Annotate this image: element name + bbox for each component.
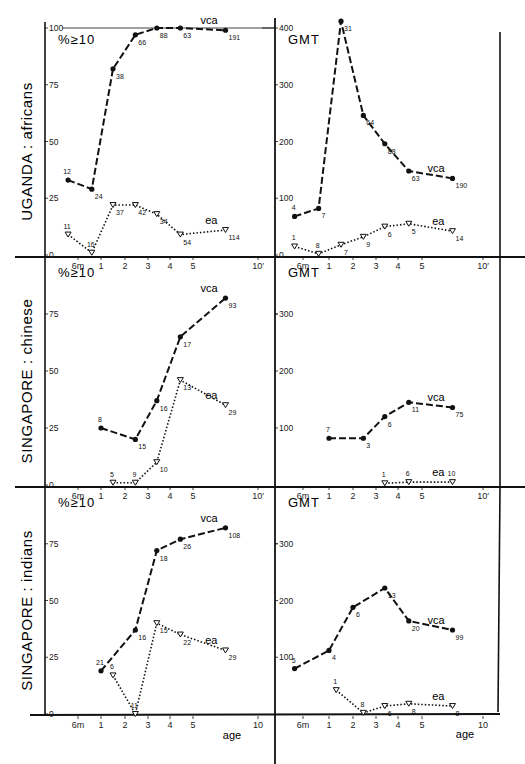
data-point-dot (133, 627, 138, 632)
n-label: 54 (183, 239, 191, 246)
x-tick-label: 1 (98, 261, 103, 271)
data-point-dot (382, 585, 387, 590)
n-label: 1 (333, 678, 337, 685)
panel-title: GMT (288, 265, 320, 280)
n-label: 20 (412, 625, 420, 632)
n-label: 66 (138, 39, 146, 46)
n-label: 7 (326, 426, 330, 433)
y-tick-label: 0 (49, 250, 54, 260)
x-tick-label: 5 (419, 491, 424, 501)
data-point-dot (178, 334, 183, 339)
data-point-dot (292, 666, 297, 671)
data-point-dot (350, 605, 355, 610)
data-point-triangle (223, 648, 229, 653)
n-label: 4 (332, 654, 336, 661)
series-label-vca: vca (200, 512, 218, 524)
y-tick-label: 100 (279, 423, 293, 433)
data-point-dot (66, 177, 71, 182)
n-label: 99 (456, 634, 464, 641)
y-tick-label: 0 (279, 250, 284, 260)
x-tick-label: 3 (145, 261, 150, 271)
n-label: 12 (63, 168, 71, 175)
n-label: 7 (344, 249, 348, 256)
n-label: 15 (160, 627, 168, 634)
x-tick-label: 4 (395, 261, 400, 271)
row-label: SINGAPORE : indians (18, 530, 35, 691)
n-label: 6 (388, 231, 392, 238)
n-label: 6 (388, 421, 392, 428)
data-point-dot (178, 25, 183, 30)
n-label: 191 (229, 34, 241, 41)
series-line-ea (295, 224, 453, 254)
data-point-triangle (110, 480, 116, 485)
x-tick-label: 2 (122, 491, 127, 501)
n-label: 24 (95, 193, 103, 200)
x-tick-label: 5 (419, 720, 424, 730)
n-label: 3 (366, 442, 370, 449)
n-label: 114 (229, 234, 240, 241)
x-tick-label: 1 (98, 720, 103, 730)
data-point-dot (154, 25, 159, 30)
data-point-dot (338, 19, 343, 24)
n-label: 29 (229, 654, 237, 661)
series-line-vca (295, 588, 453, 669)
x-tick-label: 4 (395, 720, 400, 730)
n-label: 88 (160, 32, 168, 39)
n-label: 6 (356, 611, 360, 618)
series-line-vca (101, 528, 226, 671)
n-label: 11 (131, 702, 138, 709)
y-tick-label: 25 (49, 193, 59, 203)
n-label: 63 (412, 175, 420, 182)
data-point-dot (326, 648, 331, 653)
n-label: 6 (388, 710, 392, 717)
x-axis-label-left: age (223, 729, 241, 741)
n-label: 11 (412, 406, 419, 413)
y-tick-label: 50 (49, 137, 59, 147)
data-point-dot (450, 405, 455, 410)
x-tick-label: 10 (478, 720, 488, 730)
panel-title: GMT (288, 495, 320, 510)
n-label: 15 (138, 443, 146, 450)
data-point-triangle (338, 242, 344, 247)
x-tick-label: 4 (167, 491, 172, 501)
n-label: 37 (116, 209, 124, 216)
y-tick-label: 100 (279, 193, 293, 203)
series-label-vca: vca (427, 391, 445, 403)
n-label: 64 (366, 119, 374, 126)
n-label: 8 (456, 710, 460, 717)
n-label: 1 (382, 471, 386, 478)
x-tick-label: 1 (98, 491, 103, 501)
y-tick-label: 25 (49, 423, 59, 433)
series-label-vca: vca (427, 162, 445, 174)
series-label-vca: vca (200, 14, 218, 26)
data-point-dot (133, 32, 138, 37)
n-label: 13 (183, 384, 191, 391)
x-tick-label: 1 (326, 720, 331, 730)
n-label: 5 (110, 471, 114, 478)
data-point-dot (450, 627, 455, 632)
n-label: 42 (138, 209, 146, 216)
n-label: 22 (183, 639, 191, 646)
data-point-triangle (450, 480, 456, 485)
panel-title: GMT (288, 32, 320, 47)
n-label: 10 (160, 466, 168, 473)
data-point-triangle (89, 250, 95, 255)
x-tick-label: 2 (350, 261, 355, 271)
row-label: SINGAPORE : chinese (18, 299, 35, 464)
data-point-triangle (65, 232, 71, 237)
n-label: 8 (98, 416, 102, 423)
data-point-dot (326, 436, 331, 441)
n-label: 6 (110, 663, 114, 670)
y-tick-label: 75 (49, 539, 59, 549)
data-point-dot (406, 618, 411, 623)
x-tick-label: 4 (167, 261, 172, 271)
x-tick-label: 3 (373, 261, 378, 271)
x-tick-label: 2 (350, 491, 355, 501)
series-label-ea: ea (205, 214, 218, 226)
n-label: 9 (366, 241, 370, 248)
n-label: 21 (96, 659, 104, 666)
x-tick-label: 3 (145, 491, 150, 501)
y-tick-label: 75 (49, 309, 59, 319)
series-line-vca (68, 28, 225, 189)
x-tick-label: 10 (253, 720, 263, 730)
